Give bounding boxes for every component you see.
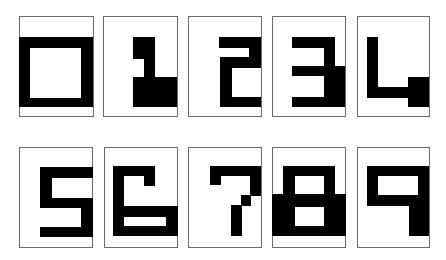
- glyph-segment: [220, 97, 261, 107]
- glyph-segment: [241, 195, 251, 206]
- digit-label: 1: [104, 17, 105, 18]
- glyph-segment: [367, 87, 410, 98]
- glyph-segment: [124, 217, 166, 226]
- digit-label: 0: [20, 17, 21, 18]
- glyph-segment: [133, 37, 155, 59]
- glyph-segment: [295, 176, 324, 194]
- glyph-segment: [40, 227, 93, 237]
- digit-card-grid: 0123456789: [0, 0, 446, 260]
- glyph-segment: [292, 97, 345, 107]
- glyph-segment: [409, 206, 429, 236]
- digit-label: 5: [20, 148, 21, 149]
- glyph-segment: [133, 77, 177, 107]
- glyph-segment: [408, 77, 429, 107]
- digit-label: 2: [189, 17, 190, 18]
- digit-label: 6: [105, 148, 106, 149]
- glyph-segment: [210, 166, 221, 185]
- digit-label: 7: [189, 148, 190, 149]
- glyph-segment: [231, 205, 242, 236]
- glyph-segment: [30, 48, 81, 98]
- glyph-segment: [144, 59, 155, 78]
- digit-label: 3: [273, 17, 274, 18]
- glyph-segment: [295, 207, 324, 226]
- glyph-segment: [144, 166, 155, 186]
- digit-label: 9: [358, 148, 359, 149]
- digit-label: 4: [358, 17, 359, 18]
- digit-label: 8: [273, 148, 274, 149]
- glyph-segment: [250, 166, 261, 196]
- glyph-segment: [378, 176, 418, 195]
